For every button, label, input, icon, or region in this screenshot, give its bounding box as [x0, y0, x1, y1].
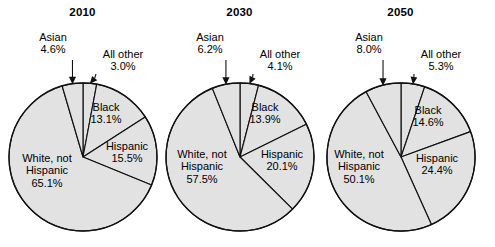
label-hispanic-2010: Hispanic 15.5% [98, 140, 156, 165]
label-all-other-2010: All other 3.0% [89, 48, 157, 73]
label-all-other-2050: All other 5.3% [407, 48, 475, 73]
leader-arrow-asian [222, 60, 229, 85]
label-asian-name: Asian [22, 31, 84, 43]
label-black-name: Black [82, 101, 130, 113]
pie-panel-2030: 2030 Asian 6.2% All other 4.1% Black 13.… [157, 0, 322, 247]
population-projection-pie-figure: 2010 Asian 4.6% All other 3.0% Black 13.… [0, 0, 495, 247]
label-hispanic-value: 20.1% [253, 160, 311, 172]
leader-arrow-asian [379, 60, 386, 86]
label-white-name-line2: Hispanic [323, 160, 395, 172]
label-all-other-name: All other [246, 48, 314, 60]
label-white-2050: White, not Hispanic 50.1% [323, 148, 395, 185]
label-white-2010: White, not Hispanic 65.1% [11, 152, 83, 189]
label-black-2050: Black 14.6% [403, 104, 453, 129]
label-black-value: 13.9% [241, 113, 289, 125]
label-asian-2010: Asian 4.6% [22, 31, 84, 56]
pie-panel-2010: 2010 Asian 4.6% All other 3.0% Black 13.… [0, 0, 165, 247]
label-white-name-line2: Hispanic [11, 164, 83, 176]
leader-arrow-all-other [249, 74, 255, 84]
label-asian-value: 6.2% [179, 43, 241, 55]
label-all-other-name: All other [407, 48, 475, 60]
label-white-name-line1: White, not [166, 148, 238, 160]
leader-arrow-asian [69, 60, 76, 84]
label-asian-name: Asian [338, 31, 400, 43]
label-black-2010: Black 13.1% [82, 101, 130, 126]
label-asian-value: 8.0% [338, 43, 400, 55]
label-white-name-line1: White, not [11, 152, 83, 164]
label-white-value: 50.1% [323, 173, 395, 185]
label-black-value: 14.6% [403, 116, 453, 128]
pie-panel-2050: 2050 Asian 8.0% All other 5.3% Black 14.… [318, 0, 483, 247]
label-white-name-line1: White, not [323, 148, 395, 160]
label-white-name-line2: Hispanic [166, 160, 238, 172]
label-hispanic-2050: Hispanic 24.4% [408, 152, 466, 177]
label-hispanic-name: Hispanic [253, 148, 311, 160]
label-all-other-value: 3.0% [89, 60, 157, 72]
label-all-other-name: All other [89, 48, 157, 60]
label-asian-2050: Asian 8.0% [338, 31, 400, 56]
label-black-value: 13.1% [82, 113, 130, 125]
label-white-value: 57.5% [166, 173, 238, 185]
label-white-2030: White, not Hispanic 57.5% [166, 148, 238, 185]
label-hispanic-value: 24.4% [408, 164, 466, 176]
label-asian-name: Asian [179, 31, 241, 43]
label-white-value: 65.1% [11, 177, 83, 189]
label-all-other-2030: All other 4.1% [246, 48, 314, 73]
label-hispanic-value: 15.5% [98, 152, 156, 164]
label-hispanic-name: Hispanic [408, 152, 466, 164]
label-hispanic-name: Hispanic [98, 140, 156, 152]
label-black-2030: Black 13.9% [241, 101, 289, 126]
label-all-other-value: 5.3% [407, 60, 475, 72]
label-hispanic-2030: Hispanic 20.1% [253, 148, 311, 173]
label-black-name: Black [403, 104, 453, 116]
leader-arrow-all-other [90, 74, 97, 84]
label-asian-2030: Asian 6.2% [179, 31, 241, 56]
label-black-name: Black [241, 101, 289, 113]
label-asian-value: 4.6% [22, 43, 84, 55]
leader-arrow-all-other [411, 74, 418, 84]
label-all-other-value: 4.1% [246, 60, 314, 72]
